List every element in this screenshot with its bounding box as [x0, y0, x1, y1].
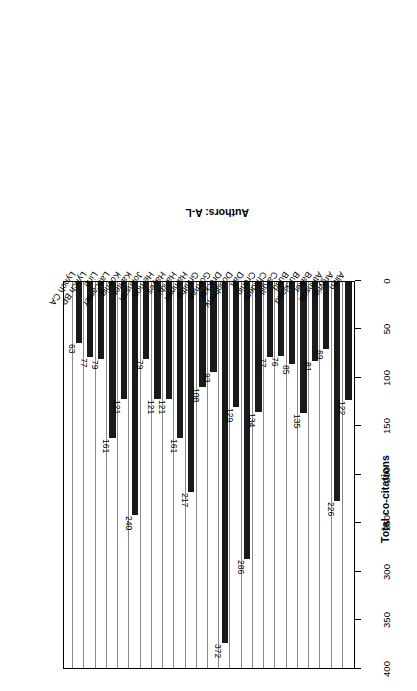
value-axis-tick — [355, 668, 361, 669]
gridline — [319, 282, 320, 668]
value-axis-tick — [355, 426, 361, 427]
bar-value-label: 161 — [169, 439, 178, 453]
rotated-chart-container: Total co-citations 050100150200250300350… — [0, 0, 417, 691]
gridline — [185, 282, 186, 668]
value-axis-tick-label: 250 — [365, 519, 409, 529]
gridline — [140, 282, 141, 668]
bar-value-label: 81 — [304, 362, 313, 371]
value-axis-tick — [355, 523, 361, 524]
bar-value-label: 226 — [326, 502, 335, 516]
bar-value-label: 286 — [236, 560, 245, 574]
bar-value-label: 121 — [147, 400, 156, 414]
bar-value-label: 217 — [180, 494, 189, 508]
gridline — [342, 282, 343, 668]
value-axis-tick — [355, 329, 361, 330]
value-axis-tick — [355, 280, 361, 281]
plot-area — [63, 281, 355, 669]
bar — [132, 282, 138, 515]
bar-value-label: 129 — [225, 408, 234, 422]
bar-value-label: 135 — [293, 414, 302, 428]
value-axis-tick-label: 300 — [365, 567, 409, 577]
gridline — [308, 282, 309, 668]
bar-value-label: 108 — [192, 388, 201, 402]
gridline — [106, 282, 107, 668]
bar — [267, 282, 273, 357]
value-axis-tick — [355, 571, 361, 572]
bar-value-label: 76 — [270, 357, 279, 366]
bar — [289, 282, 295, 364]
gridline — [117, 282, 118, 668]
chart-canvas: Total co-citations 050100150200250300350… — [0, 0, 417, 691]
gridline — [151, 282, 152, 668]
gridline — [263, 282, 264, 668]
value-axis-tick-label: 50 — [365, 325, 409, 335]
bar — [345, 282, 351, 400]
bar-value-label: 85 — [281, 365, 290, 374]
gridline — [207, 282, 208, 668]
value-axis-tick-label: 200 — [365, 470, 409, 480]
bar-value-label: 79 — [90, 360, 99, 369]
value-axis-tick-label: 0 — [365, 276, 409, 286]
value-axis-tick — [355, 620, 361, 621]
gridline — [297, 282, 298, 668]
gridline — [274, 282, 275, 668]
gridline — [252, 282, 253, 668]
bar-value-label: 77 — [79, 358, 88, 367]
gridline — [128, 282, 129, 668]
value-axis-tick — [355, 377, 361, 378]
bar-value-label: 121 — [113, 400, 122, 414]
gridline — [95, 282, 96, 668]
gridline — [196, 282, 197, 668]
value-axis-tick-label: 150 — [365, 422, 409, 432]
gridline — [218, 282, 219, 668]
gridline — [331, 282, 332, 668]
value-axis-tick — [355, 474, 361, 475]
bar-value-label: 122 — [338, 401, 347, 415]
value-axis-tick-label: 350 — [365, 616, 409, 626]
bar-value-label: 372 — [214, 644, 223, 658]
bar-value-label: 69 — [315, 350, 324, 359]
bar — [177, 282, 183, 438]
gridline — [83, 282, 84, 668]
gridline — [162, 282, 163, 668]
value-axis-tick-label: 400 — [365, 664, 409, 674]
gridline — [286, 282, 287, 668]
gridline — [241, 282, 242, 668]
bar-value-label: 93 — [203, 373, 212, 382]
bar-value-label: 161 — [102, 439, 111, 453]
bar — [109, 282, 115, 438]
bar-value-label: 77 — [259, 358, 268, 367]
bar — [255, 282, 261, 412]
gridline — [72, 282, 73, 668]
bar-value-label: 63 — [68, 344, 77, 353]
bar — [334, 282, 340, 501]
bar-value-label: 79 — [135, 360, 144, 369]
bar — [154, 282, 160, 399]
bar-value-label: 121 — [158, 400, 167, 414]
bar-value-label: 240 — [124, 516, 133, 530]
category-axis-title: Authors: A-L — [185, 207, 249, 219]
gridline — [229, 282, 230, 668]
value-axis-tick-label: 100 — [365, 373, 409, 383]
bar — [233, 282, 239, 407]
gridline — [173, 282, 174, 668]
bar — [222, 282, 228, 643]
bar-chart: Total co-citations 050100150200250300350… — [0, 0, 417, 691]
bar-value-label: 134 — [248, 413, 257, 427]
